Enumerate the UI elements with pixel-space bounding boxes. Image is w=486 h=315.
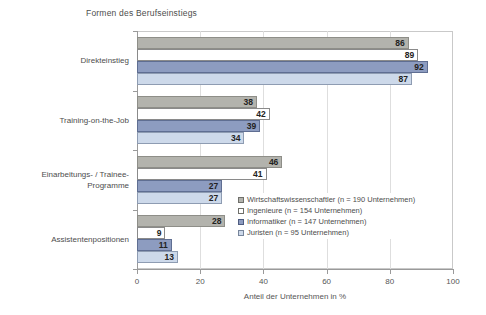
y-tick-mark [133,31,137,32]
x-tick-mark [390,270,391,274]
category-label: Einarbeitungs- / Trainee- Programme [41,169,129,191]
category-label: Assistentenpositionen [51,234,129,245]
bar-value-label: 28 [212,216,221,226]
x-tick-label: 0 [135,277,139,286]
x-tick-label: 80 [385,277,394,286]
bar[interactable] [137,132,244,144]
legend-label: Informatiker (n = 147 Unternehmen) [247,217,366,226]
bar-value-label: 42 [256,109,265,119]
x-tick-mark [200,270,201,274]
legend-item[interactable]: Juristen (n = 95 Unternehmen) [238,227,415,238]
x-tick-label: 100 [446,277,459,286]
legend-label: Ingenieure (n = 154 Unternehmen) [247,206,362,215]
y-tick-mark [133,91,137,92]
bar-value-label: 89 [405,50,414,60]
legend-label: Wirtschaftswissenschaftler (n = 190 Unte… [247,195,415,204]
bar-value-label: 46 [269,157,278,167]
bar-value-label: 27 [209,193,218,203]
legend-label: Juristen (n = 95 Unternehmen) [247,228,349,237]
bar[interactable] [137,73,412,85]
chart-title: Formen des Berufseinstiegs [86,8,197,18]
bar[interactable] [137,108,270,120]
bar[interactable] [137,37,409,49]
legend-item[interactable]: Informatiker (n = 147 Unternehmen) [238,216,415,227]
legend-swatch-icon [238,230,244,236]
y-tick-mark [133,210,137,211]
x-tick-mark [453,270,454,274]
bar-value-label: 39 [247,121,256,131]
bar[interactable] [137,49,418,61]
category-axis-line [137,269,454,270]
y-tick-mark [133,269,137,270]
legend-swatch-icon [238,208,244,214]
bar[interactable] [137,61,428,73]
bar[interactable] [137,168,267,180]
category-label: Training-on-the-Job [59,115,129,126]
x-tick-mark [263,270,264,274]
x-axis-title: Anteil der Unternehmen in % [244,292,346,301]
bar-value-label: 13 [165,252,174,262]
bar[interactable] [137,120,260,132]
chart-legend: Wirtschaftswissenschaftler (n = 190 Unte… [236,193,417,239]
bar-value-label: 41 [253,169,262,179]
x-tick-label: 20 [196,277,205,286]
bar[interactable] [137,96,257,108]
bar-value-label: 87 [398,74,407,84]
legend-item[interactable]: Wirtschaftswissenschaftler (n = 190 Unte… [238,194,415,205]
x-tick-mark [327,270,328,274]
y-tick-mark [133,150,137,151]
x-tick-label: 40 [259,277,268,286]
legend-item[interactable]: Ingenieure (n = 154 Unternehmen) [238,205,415,216]
x-tick-mark [137,270,138,274]
category-label: Direkteinstieg [81,55,129,66]
legend-swatch-icon [238,197,244,203]
bar-value-label: 9 [157,228,162,238]
bar-value-label: 38 [244,97,253,107]
bar-value-label: 34 [231,133,240,143]
x-tick-label: 60 [322,277,331,286]
bar-value-label: 92 [414,62,423,72]
legend-swatch-icon [238,219,244,225]
bar[interactable] [137,156,282,168]
bar-value-label: 27 [209,181,218,191]
bar-value-label: 11 [159,240,168,250]
bar-value-label: 86 [395,38,404,48]
